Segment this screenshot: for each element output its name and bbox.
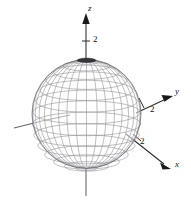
y-axis-label: y (175, 87, 179, 96)
sphere-wireframe (32, 58, 141, 171)
sphere-plot-figure: z 2 y 2 2 x (0, 0, 191, 204)
sphere-plot-canvas (0, 0, 191, 204)
positive-y-axis (136, 95, 173, 113)
y-tick-label-2: 2 (150, 105, 155, 114)
positive-z-axis (82, 13, 90, 60)
x-axis-label: x (175, 160, 179, 169)
z-axis-label: z (88, 4, 92, 13)
north-polar-cap (77, 58, 96, 63)
z-tick-label-2: 2 (93, 35, 98, 44)
x-tick-label-2: 2 (140, 137, 145, 146)
